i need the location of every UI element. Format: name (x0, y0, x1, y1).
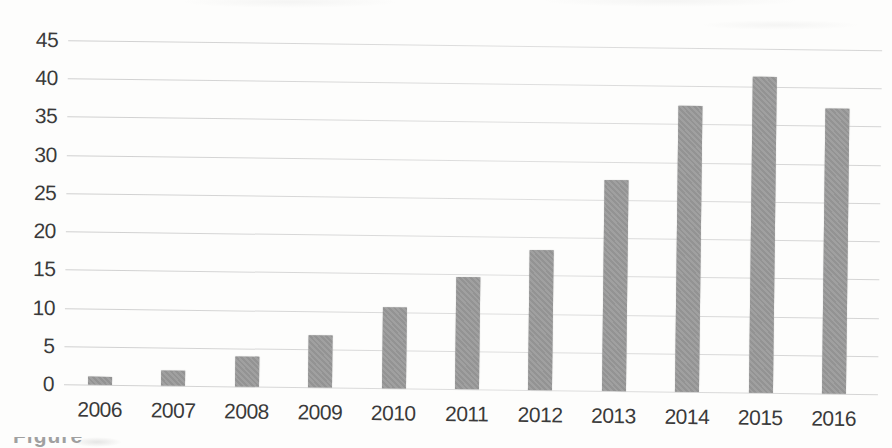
x-tick-label-2011: 2011 (430, 403, 504, 426)
x-tick-label-2007: 2007 (136, 399, 210, 422)
y-tick-label-20: 20 (6, 220, 56, 243)
scanned-page: 051015202530354045 200620072008200920102… (0, 0, 892, 448)
x-tick-label-2009: 2009 (283, 401, 357, 424)
y-tick-label-35: 35 (7, 105, 57, 128)
bar-2006 (88, 376, 112, 385)
bar-2008 (235, 357, 259, 387)
bar-2011 (455, 277, 480, 389)
x-tick-label-2006: 2006 (63, 398, 137, 421)
x-tick-label-2014: 2014 (650, 405, 724, 428)
y-tick-label-15: 15 (5, 258, 55, 281)
y-tick-label-45: 45 (8, 29, 58, 52)
x-tick-label-2010: 2010 (356, 402, 430, 425)
y-tick-label-25: 25 (6, 181, 56, 204)
gridline-45 (68, 40, 882, 51)
bar-2012 (528, 250, 554, 390)
bar-2016 (822, 108, 849, 393)
bar-2015 (749, 76, 777, 393)
bar-chart: 051015202530354045 200620072008200920102… (0, 0, 892, 448)
bar-2013 (602, 180, 629, 391)
x-tick-label-2008: 2008 (209, 400, 283, 423)
x-tick-label-2013: 2013 (576, 405, 650, 428)
bar-2009 (308, 335, 333, 387)
bar-2014 (675, 106, 702, 392)
bar-2010 (382, 307, 407, 388)
x-tick-label-2015: 2015 (723, 406, 797, 429)
y-tick-label-30: 30 (7, 143, 57, 166)
scan-artifact (72, 437, 122, 447)
y-tick-label-40: 40 (8, 67, 58, 90)
x-tick-label-2016: 2016 (797, 407, 871, 430)
bar-2007 (161, 370, 185, 386)
y-tick-label-10: 10 (5, 296, 55, 319)
y-tick-label-0: 0 (4, 373, 54, 396)
x-tick-label-2012: 2012 (503, 404, 577, 427)
y-tick-label-5: 5 (4, 334, 54, 357)
